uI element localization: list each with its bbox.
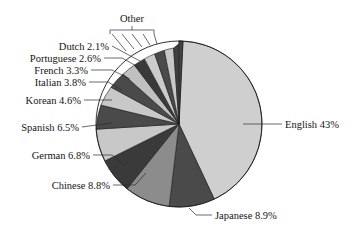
leader-line-japanese: [189, 208, 212, 215]
other-bracket-group: [110, 26, 157, 51]
pie-label-japanese: Japanese 8.9%: [215, 210, 277, 221]
other-leader-5: [154, 34, 157, 44]
pie-label-german: German 6.8%: [32, 150, 91, 161]
pie-label-chinese: Chinese 8.8%: [52, 180, 111, 191]
pie-label-english: English 43%: [285, 119, 339, 130]
pie-slices: [96, 41, 262, 207]
pie-label-french: French 3.3%: [34, 65, 88, 76]
pie-chart-svg: Other Dutch 2.1% Portuguese 2.6% French …: [0, 0, 352, 236]
pie-label-dutch: Dutch 2.1%: [59, 41, 109, 52]
pie-label-other: Other: [120, 13, 144, 24]
other-bracket: [110, 30, 154, 34]
pie-label-korean: Korean 4.6%: [26, 95, 82, 106]
pie-label-portuguese: Portuguese 2.6%: [30, 53, 101, 64]
other-leader-3: [132, 34, 142, 47]
other-leader-2: [122, 34, 134, 49]
pie-chart-figure: Other Dutch 2.1% Portuguese 2.6% French …: [0, 0, 352, 236]
pie-label-spanish: Spanish 6.5%: [21, 122, 79, 133]
other-leader-4: [143, 34, 150, 45]
pie-label-italian: Italian 3.8%: [35, 77, 87, 88]
